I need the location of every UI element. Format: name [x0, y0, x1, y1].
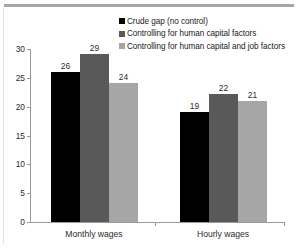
y-axis-label: 20 [3, 102, 25, 112]
y-axis-tick [27, 136, 30, 137]
x-axis-group-separator [155, 222, 156, 226]
x-axis-line [30, 222, 285, 223]
y-axis-tick [27, 222, 30, 223]
x-axis-category-hourly: Hourly wages [197, 229, 249, 239]
y-axis-label: 10 [3, 159, 25, 169]
bar-value-label: 22 [219, 83, 228, 93]
bar-hourly-crude: 19 [180, 112, 209, 222]
bar-value-label: 24 [119, 72, 128, 82]
bar-monthly-crude: 26 [51, 72, 80, 222]
y-axis-line [30, 49, 31, 223]
bar-value-label: 29 [90, 43, 99, 53]
y-axis-tick [27, 49, 30, 50]
bar-chart: Crude gap (no control) Controlling for h… [0, 0, 298, 252]
y-axis-tick [27, 193, 30, 194]
y-axis-tick [27, 164, 30, 165]
y-axis-tick [27, 107, 30, 108]
bar-value-label: 26 [61, 61, 70, 71]
y-axis-label: 15 [3, 131, 25, 141]
y-axis-label: 30 [3, 44, 25, 54]
x-axis-group-separator [284, 222, 285, 226]
bar-hourly-human-capital-job: 21 [238, 101, 267, 222]
y-axis-tick [27, 78, 30, 79]
bar-monthly-human-capital: 29 [80, 54, 109, 222]
bar-value-label: 21 [248, 90, 257, 100]
bar-monthly-human-capital-job: 24 [109, 83, 138, 222]
plot-area: 30 25 20 15 10 5 0 26 29 24 19 22 [0, 0, 298, 252]
bar-hourly-human-capital: 22 [209, 94, 238, 222]
y-axis-label: 0 [3, 217, 25, 227]
bar-value-label: 19 [190, 101, 199, 111]
x-axis-category-monthly: Monthly wages [65, 229, 122, 239]
y-axis-label: 5 [3, 188, 25, 198]
y-axis-label: 25 [3, 73, 25, 83]
